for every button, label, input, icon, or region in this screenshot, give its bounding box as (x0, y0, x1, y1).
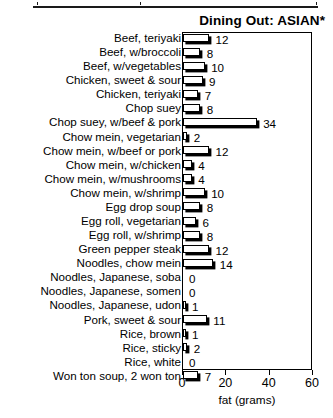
bar-value-label: 14 (220, 258, 233, 273)
bar-category-label: Egg roll, vegetarian (81, 214, 181, 229)
bar-row: Beef, w/broccoli8 (0, 46, 333, 60)
x-axis-tick (225, 370, 226, 375)
bar-row: Egg roll, vegetarian6 (0, 215, 333, 229)
bar-category-label: Rice, brown (120, 327, 181, 342)
bar (183, 160, 192, 168)
bar-row: Chow mein, vegetarian2 (0, 131, 333, 145)
bar-row: Chicken, sweet & sour9 (0, 74, 333, 88)
x-axis-tick-label: 0 (179, 376, 186, 390)
bar-value-label: 8 (207, 230, 213, 245)
x-axis-label: fat (grams) (182, 393, 312, 407)
bar (183, 202, 200, 210)
bar (183, 315, 207, 323)
bar-value-label: 0 (189, 286, 195, 301)
bar-row: Noodles, Japanese, soba0 (0, 271, 333, 285)
bar (183, 132, 187, 140)
bar-value-label: 0 (189, 272, 195, 287)
bar-category-label: Noodles, Japanese, udon (50, 298, 182, 313)
x-axis-tick-label: 40 (262, 376, 276, 390)
stray-top-rule-tick-right (316, 2, 317, 5)
bar-category-label: Chow mein, vegetarian (62, 130, 181, 145)
bar (183, 329, 186, 337)
bar-category-label: Noodles, Japanese, soba (50, 270, 181, 285)
bar-category-label: Chicken, sweet & sour (66, 73, 181, 88)
bar-category-label: Chop suey, w/beef & pork (49, 115, 181, 130)
bar-rows-container: Beef, teriyaki12Beef, w/broccoli8Beef, w… (0, 32, 333, 370)
bar-category-label: Chow mein, w/chicken (66, 158, 181, 173)
bar-category-label: Chow mein, w/shrimp (70, 186, 181, 201)
bar-value-label: 34 (263, 117, 276, 132)
bar (183, 76, 203, 84)
bar-value-label: 10 (211, 187, 224, 202)
bar-value-label: 2 (194, 342, 200, 357)
bar (183, 104, 200, 112)
bar (183, 301, 186, 309)
bar-category-label: Green pepper steak (79, 242, 181, 257)
bar-row: Chop suey, w/beef & pork34 (0, 116, 333, 130)
bar-value-label: 4 (198, 159, 204, 174)
bar-row: Chow mein, w/chicken4 (0, 159, 333, 173)
bar-value-label: 7 (205, 89, 211, 104)
bar-value-label: 4 (198, 173, 204, 188)
bar-value-label: 2 (194, 131, 200, 146)
chart-title: Dining Out: ASIAN* (0, 13, 325, 28)
bar-row: Chop suey8 (0, 102, 333, 116)
bar-category-label: Pork, sweet & sour (84, 313, 181, 328)
bar-row: Pork, sweet & sour11 (0, 314, 333, 328)
bar-value-label: 8 (207, 201, 213, 216)
bar-category-label: Won ton soup, 2 won ton (53, 369, 181, 384)
bar-row: Rice, sticky2 (0, 342, 333, 356)
bar-value-label: 7 (205, 370, 211, 385)
bar-category-label: Chow mein, w/beef or pork (43, 144, 181, 159)
bar-category-label: Chop suey (126, 101, 181, 116)
bar-row: Chow mein, w/shrimp10 (0, 187, 333, 201)
bar-category-label: Beef, w/vegetables (83, 59, 181, 74)
bar-value-label: 12 (216, 244, 229, 259)
bar-value-label: 12 (216, 145, 229, 160)
bar-value-label: 1 (192, 328, 198, 343)
bar-row: Rice, white0 (0, 356, 333, 370)
bar-value-label: 0 (189, 356, 195, 371)
bar-value-label: 11 (213, 314, 225, 329)
bar-category-label: Rice, white (124, 355, 181, 370)
bar (183, 62, 205, 70)
bar-category-label: Chicken, teriyaki (96, 87, 181, 102)
bar-category-label: Rice, sticky (122, 341, 181, 356)
bar (183, 217, 196, 225)
bar-value-label: 1 (192, 300, 198, 315)
bar-category-label: Egg roll, w/shrimp (89, 228, 181, 243)
bar (183, 188, 205, 196)
bar-category-label: Noodles, chow mein (77, 256, 181, 271)
bar-category-label: Beef, w/broccoli (99, 45, 181, 60)
bar-value-label: 6 (203, 216, 209, 231)
bar-value-label: 9 (209, 75, 215, 90)
bar-row: Won ton soup, 2 won ton7 (0, 370, 333, 384)
bar-row: Egg roll, w/shrimp8 (0, 229, 333, 243)
bar (183, 343, 187, 351)
stray-top-rule-tick-left (37, 2, 38, 5)
bar (183, 231, 200, 239)
bar-row: Chicken, teriyaki7 (0, 88, 333, 102)
bar (183, 245, 209, 253)
bar-value-label: 12 (216, 33, 229, 48)
bar-category-label: Noodles, Japanese, somen (40, 284, 181, 299)
bar-row: Beef, w/vegetables10 (0, 60, 333, 74)
bar-category-label: Beef, teriyaki (114, 31, 181, 46)
bar-category-label: Egg drop soup (106, 200, 181, 215)
bar-row: Noodles, Japanese, somen0 (0, 285, 333, 299)
bar-row: Green pepper steak12 (0, 243, 333, 257)
x-axis-tick (312, 370, 313, 375)
bar-category-label: Chow mein, w/mushrooms (44, 172, 181, 187)
bar (183, 118, 257, 126)
x-axis-tick-label: 20 (218, 376, 232, 390)
bar-row: Noodles, Japanese, udon1 (0, 299, 333, 313)
x-axis-tick (182, 370, 183, 375)
bar-value-label: 10 (211, 61, 224, 76)
bar-row: Chow mein, w/beef or pork12 (0, 145, 333, 159)
bar (183, 34, 209, 42)
bar (183, 259, 213, 267)
x-axis-tick (269, 370, 270, 375)
stray-top-rule-tick-middle (140, 2, 141, 5)
bar (183, 90, 198, 98)
bar (183, 174, 192, 182)
